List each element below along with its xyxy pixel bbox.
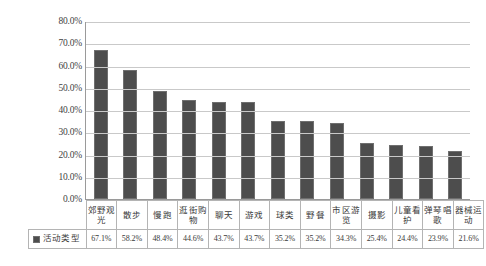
gridline [86, 89, 470, 90]
bar [212, 102, 226, 199]
value-label: 34.3% [336, 234, 356, 243]
y-axis-tick-label: 30.0% [58, 129, 82, 139]
value-cell: 35.2% [270, 230, 301, 249]
y-axis-tick-label: 60.0% [58, 62, 82, 72]
y-axis-tick-label: 50.0% [58, 84, 82, 94]
value-cell: 21.6% [453, 230, 484, 249]
category-label: 摄影 [362, 210, 392, 221]
gridline [86, 133, 470, 134]
bar [448, 151, 462, 199]
category-cell: 散步 [117, 201, 148, 230]
value-label: 43.7% [214, 234, 234, 243]
value-label: 35.2% [275, 234, 295, 243]
category-label: 球类 [270, 210, 300, 221]
category-label: 慢跑 [148, 210, 178, 221]
y-axis-tick-label: 20.0% [58, 151, 82, 161]
category-cell: 球类 [270, 201, 301, 230]
category-cell: 摄影 [361, 201, 392, 230]
value-label: 25.4% [367, 234, 387, 243]
legend-label: 活动类型 [43, 234, 80, 244]
bar [182, 100, 196, 199]
value-label: 21.6% [459, 234, 479, 243]
bar-chart-figure: 80.0%70.0%60.0%50.0%40.0%30.0%20.0%10.0%… [0, 0, 486, 266]
value-label: 58.2% [122, 234, 142, 243]
category-cell: 野餐 [300, 201, 331, 230]
value-label: 23.9% [428, 234, 448, 243]
category-label: 市区游览 [331, 205, 361, 226]
value-label: 43.7% [244, 234, 264, 243]
category-cell: 慢跑 [147, 201, 178, 230]
value-label: 35.2% [305, 234, 325, 243]
value-cell: 48.4% [147, 230, 178, 249]
plot-area [85, 22, 470, 200]
bar [360, 143, 374, 200]
value-cell: 43.7% [208, 230, 239, 249]
plot-region: 80.0%70.0%60.0%50.0%40.0%30.0%20.0%10.0%… [0, 0, 486, 205]
value-cell: 25.4% [361, 230, 392, 249]
value-cell: 35.2% [300, 230, 331, 249]
y-axis-tick-label: 10.0% [58, 173, 82, 183]
table-row-categories: 郊野观光散步慢跑逛街购物聊天游戏球类野餐市区游览摄影儿童看护弹琴唱歌器械运动 [29, 201, 484, 230]
bar [153, 91, 167, 199]
value-cell: 58.2% [117, 230, 148, 249]
value-label: 67.1% [91, 234, 111, 243]
value-label: 48.4% [152, 234, 172, 243]
value-cell: 67.1% [86, 230, 117, 249]
value-label: 44.6% [183, 234, 203, 243]
y-axis-tick-label: 70.0% [58, 40, 82, 50]
gridline [86, 156, 470, 157]
gridline [86, 67, 470, 68]
category-label: 逛街购物 [178, 205, 208, 226]
value-cell: 34.3% [331, 230, 362, 249]
category-label: 器械运动 [454, 205, 484, 226]
category-cell: 游戏 [239, 201, 270, 230]
bar [419, 146, 433, 199]
gridline [86, 44, 470, 45]
value-cell: 43.7% [239, 230, 270, 249]
category-cell: 弹琴唱歌 [423, 201, 454, 230]
y-axis-tick-label: 40.0% [58, 106, 82, 116]
data-table: 郊野观光散步慢跑逛街购物聊天游戏球类野餐市区游览摄影儿童看护弹琴唱歌器械运动 活… [28, 200, 484, 249]
value-cell: 24.4% [392, 230, 423, 249]
value-label: 24.4% [397, 234, 417, 243]
category-cell: 器械运动 [453, 201, 484, 230]
legend-entry: 活动类型 [29, 230, 87, 249]
gridline [86, 111, 470, 112]
category-label: 散步 [117, 210, 147, 221]
square-swatch-icon [33, 236, 40, 243]
category-label: 游戏 [240, 210, 270, 221]
category-label: 郊野观光 [87, 205, 117, 226]
category-label: 儿童看护 [393, 205, 423, 226]
category-cell: 市区游览 [331, 201, 362, 230]
legend-spacer-cell [29, 201, 87, 230]
value-cell: 23.9% [423, 230, 454, 249]
value-cell: 44.6% [178, 230, 209, 249]
y-axis: 80.0%70.0%60.0%50.0%40.0%30.0%20.0%10.0%… [36, 16, 84, 200]
y-axis-tick-label: 80.0% [58, 17, 82, 27]
bar [94, 50, 108, 199]
category-cell: 逛街购物 [178, 201, 209, 230]
bar [241, 102, 255, 199]
gridline [86, 22, 470, 23]
category-cell: 儿童看护 [392, 201, 423, 230]
category-label: 弹琴唱歌 [423, 205, 453, 226]
bar [389, 145, 403, 199]
table-row-values: 活动类型 67.1%58.2%48.4%44.6%43.7%43.7%35.2%… [29, 230, 484, 249]
category-label: 野餐 [301, 210, 331, 221]
category-cell: 郊野观光 [86, 201, 117, 230]
gridline [86, 178, 470, 179]
category-cell: 聊天 [208, 201, 239, 230]
category-label: 聊天 [209, 210, 239, 221]
